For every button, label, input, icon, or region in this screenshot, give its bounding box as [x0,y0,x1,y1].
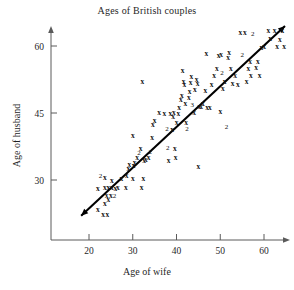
data-point-marker: x [167,156,171,165]
data-point-marker: x [208,103,212,112]
data-point-count-label: 2 [185,125,189,133]
data-point-marker: x [204,49,208,58]
x-axis-label: Age of wife [0,266,294,277]
data-point-count-label: 2 [251,30,255,38]
data-point-marker: x [192,108,196,117]
data-point-marker: x [162,109,166,118]
y-tick-label: 60 [35,42,45,52]
data-point-marker: x [262,42,266,51]
data-point-marker: x [258,71,262,80]
data-point-marker: x [204,86,208,95]
data-point-marker: x [124,183,128,192]
data-point-marker: x [110,176,114,185]
data-point-marker: x [210,80,214,89]
data-points: xxxxxxxxxxxx2xx2xxxxxxxxxx2xxxxxx2xxxxxx… [96,26,286,220]
data-point-marker: x [96,184,100,193]
y-tick-label: 30 [35,176,45,186]
data-point-marker: x [231,79,235,88]
data-point-marker: x [106,210,110,219]
data-point-marker: x [273,26,277,35]
data-point-count-label: 2 [225,123,229,131]
data-point-count-label: 2 [149,148,153,156]
data-point-marker: x [183,80,187,89]
data-point-marker: x [248,57,252,66]
data-point-marker: x [219,50,223,59]
plot-area: 2030405060304560 xxxxxxxxxxxx2xx2xxxxxxx… [0,0,294,290]
data-point-marker: x [243,28,247,37]
data-point-marker: x [282,42,286,51]
data-point-marker: x [175,118,179,127]
data-point-marker: x [188,87,192,96]
data-point-marker: x [173,144,177,153]
data-point-marker: x [197,162,201,171]
data-point-marker: x [190,72,194,81]
data-point-marker: x [233,71,237,80]
data-point-count-label: 2 [165,125,169,133]
data-point-marker: x [157,108,161,117]
data-point-marker: x [141,77,145,86]
x-tick-label: 50 [216,246,226,256]
data-point-marker: x [131,131,135,140]
data-point-marker: x [227,48,231,57]
data-point-marker: x [181,66,185,75]
data-point-marker: x [139,144,143,153]
data-point-marker: x [215,64,219,73]
data-point-marker: x [177,103,181,112]
data-point-marker: x [120,174,124,183]
data-point-marker: x [268,34,272,43]
data-point-marker: x [174,153,178,162]
data-point-marker: x [141,174,145,183]
data-point-marker: x [281,26,285,35]
data-point-marker: x [116,183,120,192]
data-point-marker: x [249,71,253,80]
x-axis-arrowhead [283,237,290,243]
data-point-marker: x [196,79,200,88]
data-point-marker: x [256,57,260,66]
x-tick-label: 40 [172,246,182,256]
data-point-count-label: 2 [240,51,244,59]
data-point-marker: x [223,77,227,86]
y-axis-arrowhead [48,26,54,33]
data-point-marker: x [131,174,135,183]
data-point-count-label: 2 [220,69,224,77]
x-tick-label: 20 [84,246,94,256]
data-point-marker: x [150,133,154,142]
y-tick-label: 45 [35,109,45,119]
data-point-count-label: 2 [166,144,170,152]
x-tick-label: 30 [128,246,138,256]
data-point-count-label: 2 [113,192,117,200]
data-point-marker: x [103,173,107,182]
x-tick-label: 60 [259,246,269,256]
data-point-marker: x [140,183,144,192]
data-point-marker: x [218,107,222,116]
scatter-chart: Ages of British couples Age of husband 2… [0,0,294,290]
data-point-marker: x [96,205,100,214]
data-point-marker: x [236,80,240,89]
